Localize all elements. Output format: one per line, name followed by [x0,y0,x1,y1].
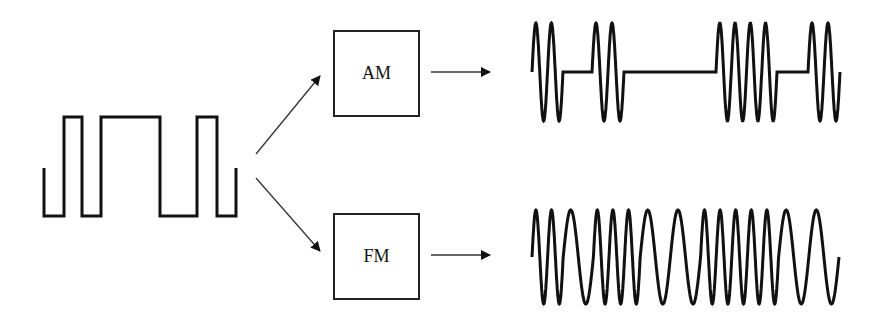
am-output-wave [532,23,840,121]
fm-output-wave [532,210,839,304]
fm-label: FM [363,246,389,267]
digital-input-signal [44,117,236,216]
am-label: AM [362,63,391,84]
arrow-to-fm [256,178,320,251]
diagram-canvas [0,0,878,324]
am-modulator-box: AM [333,30,420,117]
fm-modulator-box: FM [333,213,420,300]
arrow-to-am [256,76,320,154]
